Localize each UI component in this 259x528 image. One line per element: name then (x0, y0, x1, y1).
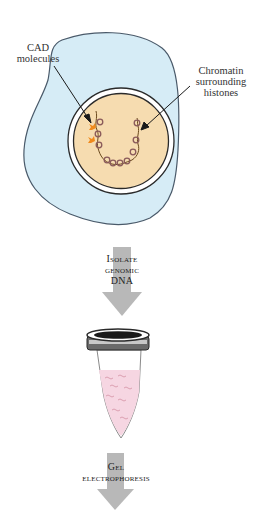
step-line: Gel (60, 461, 172, 472)
step-2-label: Gel electrophoresis (60, 461, 172, 483)
step-line: genomic (82, 264, 162, 275)
nucleus (74, 94, 169, 189)
chromatin-label: Chromatin surrounding histones (188, 65, 254, 98)
cad-assay-diagram: CAD molecules Chromatin surrounding hist… (0, 0, 259, 528)
label-line: CAD (8, 42, 68, 53)
cad-molecules-label: CAD molecules (8, 42, 68, 64)
step-line: DNA (82, 275, 162, 286)
label-line: histones (188, 87, 254, 98)
label-line: surrounding (188, 76, 254, 87)
microcentrifuge-tube (87, 329, 149, 438)
step-1-label: Isolate genomic DNA (82, 253, 162, 286)
step-line: Isolate (82, 253, 162, 264)
step-line: electrophoresis (60, 472, 172, 483)
label-line: molecules (8, 53, 68, 64)
label-line: Chromatin (188, 65, 254, 76)
